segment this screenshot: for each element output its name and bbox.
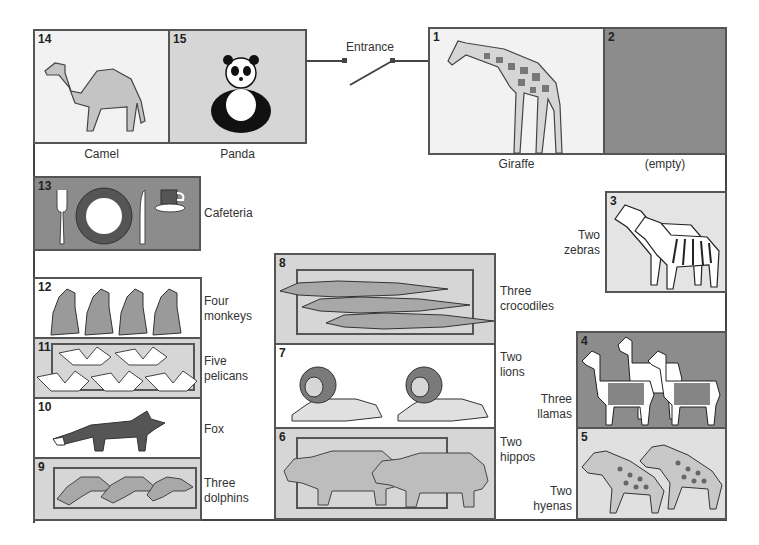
zone-6-label-line1: Two — [500, 435, 535, 450]
zone-1-label: Giraffe — [428, 157, 605, 172]
hippo-icon — [282, 441, 494, 513]
zone-11-pelicans[interactable]: 11 — [33, 337, 202, 399]
entrance-fence-right — [393, 60, 428, 62]
pelican-icon — [35, 343, 201, 397]
zone-7-label: Two lions — [500, 350, 525, 380]
zone-5-label: Two hyenas — [520, 484, 572, 514]
zone-7-label-line2: lions — [500, 365, 525, 380]
zone-13-label: Cafeteria — [204, 206, 253, 221]
zone-11-label: Five pelicans — [204, 354, 248, 384]
zone-4-label: Three llamas — [520, 392, 572, 422]
zone-12-monkeys[interactable]: 12 — [33, 277, 202, 339]
camel-icon — [41, 51, 161, 136]
zone-12-label: Four monkeys — [204, 294, 252, 324]
zone-number: 14 — [38, 32, 51, 46]
entrance-gate-icon — [345, 55, 395, 90]
zone-number: 5 — [581, 430, 588, 444]
panda-icon — [206, 53, 276, 135]
zone-14-label: Camel — [33, 147, 170, 162]
zone-3-label-line2: zebras — [548, 243, 600, 258]
zone-4-label-line1: Three — [520, 392, 572, 407]
lion-icon — [286, 365, 496, 425]
zone-9-label: Three dolphins — [204, 476, 249, 506]
monkey-icon — [47, 283, 197, 339]
giraffe-icon — [444, 33, 594, 155]
knife-icon — [137, 188, 147, 246]
zone-6-hippos[interactable]: 6 — [274, 427, 496, 520]
zone-3-label-line1: Two — [548, 228, 600, 243]
zone-2-label: (empty) — [603, 157, 727, 172]
entrance-fence-left — [307, 60, 345, 62]
zone-8-crocodiles[interactable]: 8 — [274, 253, 496, 345]
zone-8-label-line2: crocodiles — [500, 299, 554, 314]
plate-icon — [73, 186, 135, 246]
hyena-icon — [580, 443, 726, 515]
zone-7-label-line1: Two — [500, 350, 525, 365]
zone-8-label: Three crocodiles — [500, 284, 554, 314]
zone-8-label-line1: Three — [500, 284, 554, 299]
zone-number: 15 — [173, 32, 186, 46]
zone-9-label-line2: dolphins — [204, 491, 249, 506]
zone-6-label-line2: hippos — [500, 450, 535, 465]
zone-number: 8 — [279, 256, 286, 270]
crocodile-icon — [278, 275, 498, 335]
zone-number: 9 — [38, 460, 45, 474]
dolphin-icon — [55, 469, 195, 509]
zone-11-label-line1: Five — [204, 354, 248, 369]
zone-5-label-line1: Two — [520, 484, 572, 499]
zone-10-fox[interactable]: 10 — [33, 397, 202, 459]
zone-13-cafeteria[interactable]: 13 — [33, 176, 201, 251]
zone-11-label-line2: pelicans — [204, 369, 248, 384]
zone-number: 13 — [38, 179, 51, 193]
zebra-icon — [611, 199, 723, 291]
zone-14-camel[interactable]: 14 — [33, 29, 170, 144]
zone-5-hyenas[interactable]: 5 — [576, 427, 727, 520]
zone-number: 7 — [279, 346, 286, 360]
zone-15-label: Panda — [168, 147, 307, 162]
fork-icon — [55, 190, 69, 246]
zone-3-label: Two zebras — [548, 228, 600, 258]
zone-12-label-line1: Four — [204, 294, 252, 309]
coffee-cup-icon — [153, 188, 191, 214]
zone-9-dolphins[interactable]: 9 — [33, 457, 202, 521]
zone-12-label-line2: monkeys — [204, 309, 252, 324]
zone-number: 2 — [608, 30, 615, 44]
zone-10-label: Fox — [204, 422, 224, 437]
zone-9-label-line1: Three — [204, 476, 249, 491]
zone-3-zebras[interactable]: 3 — [605, 191, 727, 293]
zone-4-llamas[interactable]: 4 — [576, 331, 727, 429]
fox-icon — [51, 407, 171, 453]
zone-number: 10 — [38, 400, 51, 414]
zone-4-label-line2: llamas — [520, 407, 572, 422]
zone-15-panda[interactable]: 15 — [168, 29, 307, 144]
llama-icon — [580, 335, 726, 427]
zone-1-giraffe[interactable]: 1 — [428, 27, 605, 155]
entrance-label: Entrance — [346, 40, 394, 55]
zone-6-label: Two hippos — [500, 435, 535, 465]
zone-number: 1 — [433, 30, 440, 44]
zone-7-lions[interactable]: 7 — [274, 343, 496, 429]
zone-5-label-line2: hyenas — [520, 499, 572, 514]
zone-2-empty[interactable]: 2 — [603, 27, 727, 155]
